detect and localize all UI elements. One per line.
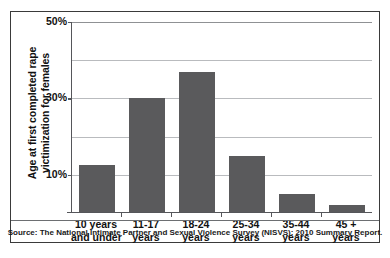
bar [79,165,115,213]
y-axis-tick-label: 50% [27,15,67,27]
bar [179,72,215,213]
x-axis-tick-mark [221,213,222,217]
bar [279,194,315,213]
bar [229,156,265,213]
chart-figure: Age at first completed rape victimizatio… [10,11,380,243]
plot-area: 10%30%50% [71,22,371,213]
y-axis-tick-label: 10% [27,168,67,180]
x-axis-tick-mark [271,213,272,217]
source-note: Source: The National Intimate Partner an… [11,222,379,243]
bar [129,98,165,213]
y-axis-tick-label: 30% [27,91,67,103]
x-axis-tick-mark [121,213,122,217]
x-axis-line [67,212,372,213]
bar-series [72,22,372,213]
x-axis-tick-mark [171,213,172,217]
x-axis-tick-mark [321,213,322,217]
source-divider [11,220,379,221]
